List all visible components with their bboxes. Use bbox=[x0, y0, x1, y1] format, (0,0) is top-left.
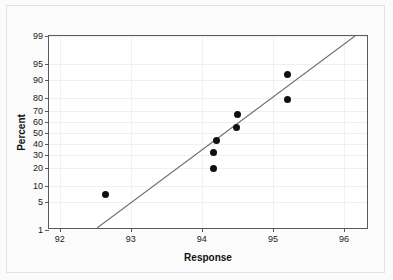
x-tick-label: 92 bbox=[55, 235, 65, 244]
x-tick-mark bbox=[273, 228, 274, 232]
x-tick-label: 93 bbox=[126, 235, 136, 244]
y-tick-label: 99 bbox=[33, 32, 43, 41]
x-tick-label: 95 bbox=[268, 235, 278, 244]
y-tick-label: 80 bbox=[33, 93, 43, 102]
y-axis-title: Percent bbox=[14, 35, 28, 229]
x-axis-title: Response bbox=[48, 252, 368, 263]
x-tick-label: 96 bbox=[339, 235, 349, 244]
x-tick-mark bbox=[344, 228, 345, 232]
plot-panel: 151020304050607080909599 9293949596 bbox=[48, 35, 368, 229]
y-tick-mark bbox=[45, 186, 49, 187]
data-point bbox=[213, 137, 220, 144]
y-tick-mark bbox=[45, 155, 49, 156]
x-tick-label: 94 bbox=[197, 235, 207, 244]
fitted-line bbox=[49, 36, 367, 228]
y-tick-mark bbox=[45, 168, 49, 169]
plot-inner-area bbox=[49, 36, 367, 228]
y-tick-label: 90 bbox=[33, 75, 43, 84]
y-tick-mark bbox=[45, 122, 49, 123]
y-tick-mark bbox=[45, 144, 49, 145]
y-tick-mark bbox=[45, 98, 49, 99]
y-tick-label: 60 bbox=[33, 118, 43, 127]
y-tick-label: 10 bbox=[33, 182, 43, 191]
y-tick-label: 95 bbox=[33, 60, 43, 69]
data-point bbox=[233, 124, 240, 131]
y-tick-label: 70 bbox=[33, 107, 43, 116]
y-tick-mark bbox=[45, 133, 49, 134]
y-tick-label: 20 bbox=[33, 164, 43, 173]
y-tick-mark bbox=[45, 230, 49, 231]
y-tick-mark bbox=[45, 202, 49, 203]
data-point bbox=[284, 71, 291, 78]
y-tick-label: 30 bbox=[33, 150, 43, 159]
y-tick-label: 1 bbox=[38, 226, 43, 235]
y-tick-label: 5 bbox=[38, 197, 43, 206]
y-tick-mark bbox=[45, 111, 49, 112]
x-tick-mark bbox=[60, 228, 61, 232]
x-tick-mark bbox=[131, 228, 132, 232]
probability-plot-figure: Percent 151020304050607080909599 9293949… bbox=[0, 0, 393, 280]
x-tick-mark bbox=[202, 228, 203, 232]
y-tick-label: 50 bbox=[33, 129, 43, 138]
y-tick-label: 40 bbox=[33, 139, 43, 148]
y-tick-mark bbox=[45, 36, 49, 37]
y-tick-mark bbox=[45, 80, 49, 81]
data-point bbox=[284, 96, 291, 103]
y-tick-mark bbox=[45, 64, 49, 65]
y-axis-title-label: Percent bbox=[16, 114, 27, 151]
